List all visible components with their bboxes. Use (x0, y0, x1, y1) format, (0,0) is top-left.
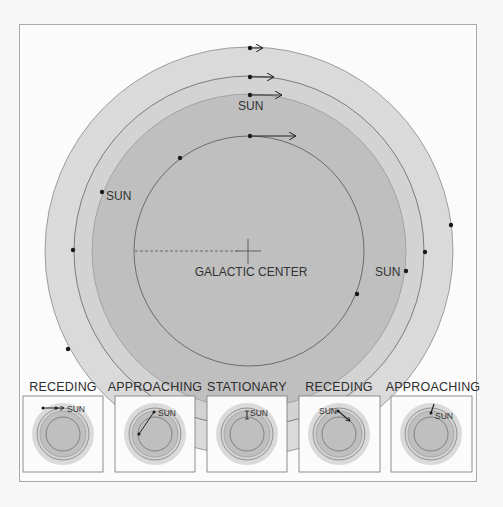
panel-receding-2: SUN (299, 396, 380, 472)
panel-sun-label: SUN (67, 404, 85, 414)
panel-approaching-1: SUN (115, 396, 195, 472)
panel-sun-label: SUN (158, 408, 176, 418)
galactic-center-label: GALACTIC CENTER (195, 265, 308, 279)
panel-title-approaching-2: APPROACHING (385, 380, 481, 394)
panel-title-approaching-1: APPROACHING (107, 380, 203, 394)
sun-label-left: SUN (106, 189, 131, 203)
galactic-rotation-diagram: SUN SUN SUN GALACTIC CENTER SUN SUN SUN (0, 0, 503, 507)
panel-title-receding-2: RECEDING (291, 380, 387, 394)
panel-title-receding-1: RECEDING (15, 380, 111, 394)
panel-sun-label: SUN (250, 408, 268, 418)
sun-label-right: SUN (375, 265, 400, 279)
panel-sun-label: SUN (435, 411, 453, 421)
panel-stationary: SUN (207, 396, 287, 472)
sun-label-top: SUN (238, 99, 263, 113)
panel-approaching-2: SUN (391, 396, 472, 472)
panel-sun-label: SUN (319, 406, 337, 416)
panel-receding-1: SUN (23, 396, 103, 472)
panel-title-stationary: STATIONARY (199, 380, 295, 394)
